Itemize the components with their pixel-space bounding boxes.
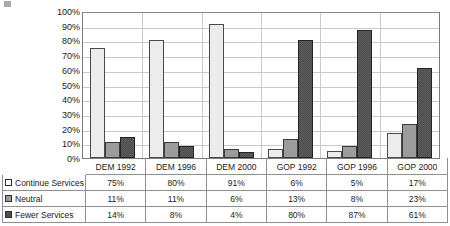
bar-group [261, 13, 320, 158]
table-cell: 13% [266, 191, 326, 207]
bar[interactable] [179, 146, 194, 158]
table-cell: 80% [266, 207, 326, 223]
bar-group [142, 13, 201, 158]
bar-group [380, 13, 439, 158]
y-axis-tick-label: 20% [36, 125, 80, 134]
legend-label: Fewer Services [15, 210, 74, 220]
bar[interactable] [209, 24, 224, 158]
series-2-swatch [5, 211, 12, 218]
bar[interactable] [387, 133, 402, 158]
table-cell: 87% [327, 207, 387, 223]
table-corner-cell [3, 159, 86, 175]
y-axis-tick-label: 40% [36, 96, 80, 105]
column-header-5: GOP 2000 [387, 159, 447, 175]
bar[interactable] [90, 48, 105, 158]
bar[interactable] [402, 124, 417, 158]
bar[interactable] [342, 146, 357, 158]
column-header-0: DEM 1992 [86, 159, 146, 175]
table-cell: 4% [206, 207, 266, 223]
table-cell: 61% [387, 207, 447, 223]
table-cell: 17% [387, 175, 447, 191]
series-0-swatch [5, 179, 12, 186]
table-cell: 14% [86, 207, 146, 223]
legend-item-0[interactable]: Continue Services [3, 175, 86, 191]
bar[interactable] [120, 137, 135, 158]
bar-group [83, 13, 142, 158]
bar-group [320, 13, 379, 158]
table-cell: 11% [86, 191, 146, 207]
bar-groups [83, 13, 439, 158]
plot-area [82, 12, 440, 159]
data-table: DEM 1992DEM 1996DEM 2000GOP 1992GOP 1996… [2, 158, 448, 223]
column-header-4: GOP 1996 [327, 159, 387, 175]
table-cell: 6% [266, 175, 326, 191]
y-axis-tick-label: 100% [36, 8, 80, 17]
table-cell: 80% [146, 175, 206, 191]
table-cell: 6% [206, 191, 266, 207]
table-row: Neutral11%11%6%13%8%23% [3, 191, 448, 207]
table-cell: 23% [387, 191, 447, 207]
y-axis-tick-label: 90% [36, 22, 80, 31]
table-cell: 11% [146, 191, 206, 207]
y-axis-tick-label: 60% [36, 66, 80, 75]
table-row: Fewer Services14%8%4%80%87%61% [3, 207, 448, 223]
bar[interactable] [357, 30, 372, 158]
bar[interactable] [327, 151, 342, 158]
series-1-swatch [5, 195, 12, 202]
bar-group [202, 13, 261, 158]
y-axis-tick-label: 70% [36, 52, 80, 61]
y-axis-tick-label: 10% [36, 140, 80, 149]
bar[interactable] [149, 40, 164, 158]
y-axis-tick-label: 50% [36, 81, 80, 90]
bar[interactable] [268, 149, 283, 158]
table-cell: 8% [327, 191, 387, 207]
y-axis-tick-label: 80% [36, 37, 80, 46]
bar[interactable] [283, 139, 298, 158]
legend-label: Continue Services [15, 178, 84, 188]
chart-page: 100%90%80%70%60%50%40%30%20%10%0% DEM 19… [0, 0, 450, 226]
bar[interactable] [164, 142, 179, 158]
table-row: Continue Services75%80%91%6%5%17% [3, 175, 448, 191]
y-axis-tick-label: 30% [36, 110, 80, 119]
table-cell: 8% [146, 207, 206, 223]
table-cell: 5% [327, 175, 387, 191]
bar-chart: 100%90%80%70%60%50%40%30%20%10%0% [0, 6, 450, 172]
column-header-2: DEM 2000 [206, 159, 266, 175]
legend-label: Neutral [15, 194, 42, 204]
column-header-3: GOP 1992 [266, 159, 326, 175]
table-cell: 75% [86, 175, 146, 191]
bar[interactable] [417, 68, 432, 158]
bar[interactable] [298, 40, 313, 158]
legend-item-2[interactable]: Fewer Services [3, 207, 86, 223]
y-axis: 100%90%80%70%60%50%40%30%20%10%0% [36, 12, 80, 159]
table-header-row: DEM 1992DEM 1996DEM 2000GOP 1992GOP 1996… [3, 159, 448, 175]
column-header-1: DEM 1996 [146, 159, 206, 175]
legend-item-1[interactable]: Neutral [3, 191, 86, 207]
bar[interactable] [105, 142, 120, 158]
bar[interactable] [224, 149, 239, 158]
table-cell: 91% [206, 175, 266, 191]
